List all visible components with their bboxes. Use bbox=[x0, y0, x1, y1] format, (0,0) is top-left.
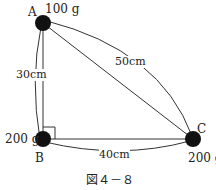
ball-a bbox=[35, 15, 51, 31]
dimension-arc-ac bbox=[47, 21, 192, 136]
point-b-mass: 200 g bbox=[5, 133, 39, 145]
point-a-mass: 100 g bbox=[45, 3, 79, 15]
point-a-label: A bbox=[28, 6, 37, 18]
point-b-label: B bbox=[35, 152, 44, 164]
triangle-diagram bbox=[0, 0, 216, 190]
point-c-mass: 200 g bbox=[188, 152, 216, 164]
dimension-arc-ab bbox=[35, 27, 41, 140]
distance-bc: 40cm bbox=[99, 149, 130, 161]
side-ac bbox=[43, 23, 193, 139]
figure-caption: 図４－８ bbox=[86, 170, 134, 187]
point-c-label: C bbox=[197, 123, 206, 135]
distance-ac: 50cm bbox=[115, 56, 146, 68]
distance-ab: 30cm bbox=[16, 69, 47, 81]
